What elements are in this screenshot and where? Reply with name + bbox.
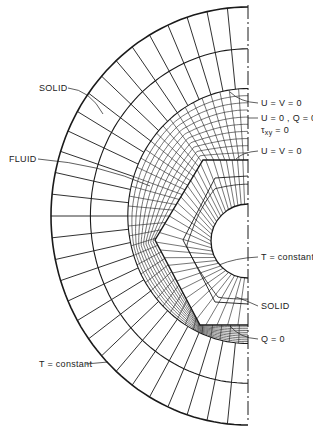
- label-solid-outer: SOLID: [39, 83, 68, 93]
- label-uv0-mid: U = V = 0: [261, 146, 302, 156]
- leader-solid-outer: [68, 88, 103, 114]
- leader-solid-inner: [236, 297, 258, 306]
- label-solid-inner: SOLID: [261, 301, 290, 311]
- label-t-constant-inner: T = constant: [261, 252, 313, 262]
- label-txy0: τxy = 0: [261, 125, 289, 137]
- label-t-constant-outer: T = constant: [39, 359, 92, 369]
- label-fluid: FLUID: [9, 154, 37, 164]
- label-txy0-rest: = 0: [272, 125, 288, 135]
- label-uv0-top: U = V = 0: [261, 98, 302, 108]
- leader-uv0-mid: [236, 151, 258, 159]
- label-u0-q0: U = 0 , Q = 0: [261, 113, 313, 123]
- leader-lines: [38, 88, 258, 364]
- leader-t-constant-inner: [219, 257, 258, 265]
- leader-uv0-top: [230, 92, 258, 103]
- mesh-diagram: SOLID FLUID T = constant U = V = 0 U = 0…: [0, 0, 313, 431]
- label-q0: Q = 0: [261, 334, 285, 344]
